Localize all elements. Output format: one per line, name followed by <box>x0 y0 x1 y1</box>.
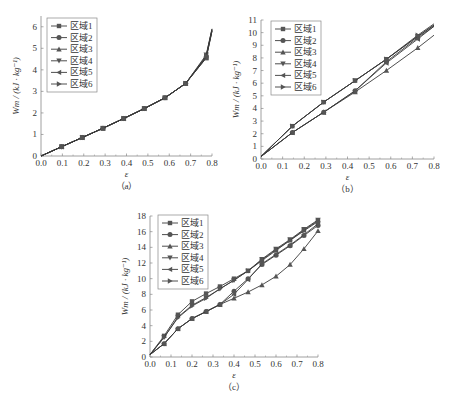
legend: 区域1区域2区域3区域4区域5区域6 <box>47 18 97 92</box>
y-tick-label: 2 <box>142 336 147 346</box>
x-axis-label: ε <box>125 169 129 179</box>
x-tick-label: 0.5 <box>364 161 376 171</box>
panel-caption: （a） <box>116 181 138 191</box>
legend-label: 区域1 <box>70 20 93 31</box>
legend-label: 区域5 <box>294 69 317 80</box>
x-tick-label: 0.2 <box>186 359 197 369</box>
y-tick-label: 16 <box>137 227 147 237</box>
panel-caption: （b） <box>336 184 359 194</box>
y-tick-label: 6 <box>142 305 147 315</box>
legend-label: 区域5 <box>181 263 204 274</box>
x-axis-label: ε <box>346 172 350 182</box>
figure-canvas: 0.00.10.20.30.40.50.60.70.80123456εWm / … <box>0 0 454 406</box>
y-tick-label: 1 <box>253 141 258 151</box>
y-axis-label: Wm / (kJ · kg⁻¹) <box>120 258 130 316</box>
y-tick-label: 12 <box>137 258 146 268</box>
x-tick-label: 0.6 <box>270 359 282 369</box>
x-tick-label: 0.8 <box>312 359 324 369</box>
x-tick-label: 0.5 <box>249 359 261 369</box>
x-tick-label: 0.3 <box>100 158 112 168</box>
x-tick-label: 0.3 <box>207 359 219 369</box>
y-tick-label: 4 <box>253 103 258 113</box>
square-legend-icon <box>57 24 61 28</box>
square-marker-icon <box>190 299 194 303</box>
legend-label: 区域3 <box>181 240 204 251</box>
y-tick-label: 6 <box>33 22 38 32</box>
x-axis-label: ε <box>232 370 236 380</box>
x-tick-label: 0.6 <box>385 161 397 171</box>
legend-label: 区域1 <box>181 217 204 228</box>
x-tick-label: 0.7 <box>407 161 419 171</box>
legend: 区域1区域2区域3区域4区域5区域6 <box>158 215 208 289</box>
circle-legend-icon <box>281 38 286 43</box>
y-tick-label: 14 <box>137 242 147 252</box>
y-tick-label: 3 <box>33 86 38 96</box>
legend-label: 区域3 <box>294 46 317 57</box>
x-tick-label: 0.2 <box>299 161 310 171</box>
square-legend-icon <box>281 27 285 31</box>
legend-label: 区域2 <box>181 229 204 240</box>
x-tick-label: 0.1 <box>57 158 68 168</box>
square-legend-icon <box>168 221 172 225</box>
x-tick-label: 0.0 <box>255 161 267 171</box>
y-tick-label: 18 <box>137 211 147 221</box>
legend-label: 区域4 <box>70 55 93 66</box>
x-tick-label: 0.0 <box>35 158 47 168</box>
x-tick-label: 0.2 <box>78 158 89 168</box>
y-tick-label: 10 <box>248 28 258 38</box>
y-tick-label: 9 <box>253 40 258 50</box>
y-tick-label: 5 <box>253 91 258 101</box>
x-tick-label: 0.8 <box>428 161 440 171</box>
legend: 区域1区域2区域3区域4区域5区域6 <box>271 21 321 95</box>
legend-label: 区域3 <box>70 43 93 54</box>
x-tick-label: 0.8 <box>206 158 218 168</box>
triangle-up-marker-icon <box>259 282 264 287</box>
x-tick-label: 0.4 <box>228 359 240 369</box>
y-tick-label: 2 <box>33 108 38 118</box>
y-tick-label: 11 <box>248 15 257 25</box>
y-tick-label: 0 <box>33 151 38 161</box>
y-tick-label: 5 <box>33 43 38 53</box>
legend-label: 区域2 <box>294 35 317 46</box>
y-axis-label: Wm / (kJ · kg⁻¹) <box>11 57 21 115</box>
x-tick-label: 0.5 <box>142 158 154 168</box>
y-tick-label: 4 <box>142 321 147 331</box>
y-tick-label: 1 <box>33 129 38 139</box>
x-tick-label: 0.4 <box>121 158 133 168</box>
legend-label: 区域6 <box>181 275 204 286</box>
y-tick-label: 2 <box>253 129 258 139</box>
legend-label: 区域1 <box>294 23 317 34</box>
legend-label: 区域2 <box>70 32 93 43</box>
legend-label: 区域5 <box>70 66 93 77</box>
triangle-up-marker-icon <box>245 289 250 294</box>
panel-caption: （c） <box>223 382 245 392</box>
x-tick-label: 0.0 <box>144 359 156 369</box>
y-tick-label: 0 <box>253 154 258 164</box>
chart-c: 0.00.10.20.30.40.50.60.70.80246810121416… <box>120 211 324 392</box>
x-tick-label: 0.7 <box>291 359 303 369</box>
legend-label: 区域6 <box>70 78 93 89</box>
y-tick-label: 4 <box>33 65 38 75</box>
y-tick-label: 10 <box>137 274 147 284</box>
legend-label: 区域6 <box>294 81 317 92</box>
chart-a: 0.00.10.20.30.40.50.60.70.80123456εWm / … <box>11 16 218 191</box>
circle-legend-icon <box>57 35 62 40</box>
x-tick-label: 0.7 <box>185 158 197 168</box>
y-tick-label: 0 <box>142 352 147 362</box>
circle-legend-icon <box>168 232 173 237</box>
x-tick-label: 0.1 <box>165 359 176 369</box>
y-axis-label: Wm / (kJ · kg⁻¹) <box>231 61 241 119</box>
triangle-up-marker-icon <box>315 228 320 233</box>
y-tick-label: 7 <box>253 66 258 76</box>
legend-label: 区域4 <box>294 58 317 69</box>
legend-label: 区域4 <box>181 252 204 263</box>
x-tick-label: 0.6 <box>164 158 176 168</box>
y-tick-label: 6 <box>253 78 258 88</box>
y-tick-label: 3 <box>253 116 258 126</box>
x-tick-label: 0.1 <box>277 161 288 171</box>
chart-b: 0.00.10.20.30.40.50.60.70.80123456789101… <box>231 15 440 194</box>
y-tick-label: 8 <box>253 53 258 63</box>
square-marker-icon <box>204 291 208 295</box>
x-tick-label: 0.3 <box>320 161 332 171</box>
x-tick-label: 0.4 <box>342 161 354 171</box>
